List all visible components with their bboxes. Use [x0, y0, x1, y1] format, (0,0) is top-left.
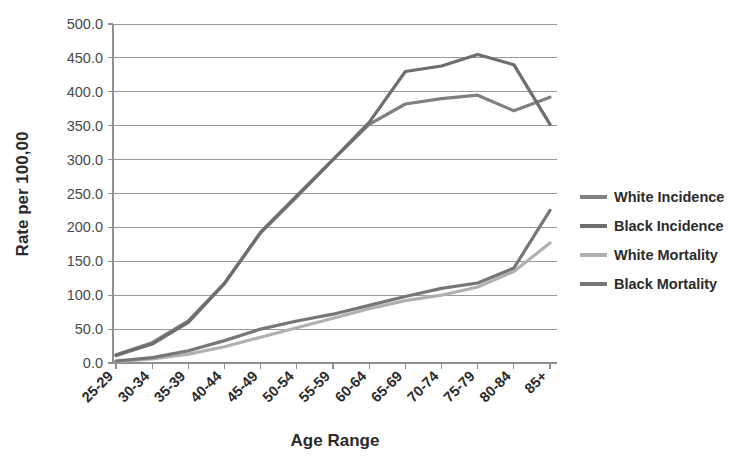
data-series-group — [116, 55, 550, 362]
x-category-label: 80-84 — [476, 368, 514, 406]
y-tick-label: 450.0 — [67, 50, 103, 66]
x-category-label: 65-69 — [368, 368, 406, 406]
x-category-label: 75-79 — [440, 368, 478, 406]
y-tick-label: 300.0 — [67, 152, 103, 168]
y-tick-label: 150.0 — [67, 253, 103, 269]
series-line — [116, 243, 550, 362]
legend-label: White Incidence — [614, 189, 724, 205]
chart-legend: White IncidenceBlack IncidenceWhite Mort… — [580, 189, 724, 292]
legend-label: Black Incidence — [614, 218, 724, 234]
y-tick-label: 100.0 — [67, 287, 103, 303]
y-tick-labels-group: 0.050.0100.0150.0200.0250.0300.0350.0400… — [67, 16, 103, 371]
legend-label: White Mortality — [614, 247, 718, 263]
x-category-label: 50-54 — [259, 368, 297, 406]
x-category-labels-group: 25-2930-3435-3940-4445-4950-5455-5960-64… — [79, 368, 551, 406]
y-tick-label: 500.0 — [67, 16, 103, 32]
y-tick-label: 250.0 — [67, 186, 103, 202]
x-category-label: 40-44 — [187, 368, 225, 406]
x-category-label: 70-74 — [404, 368, 442, 406]
x-category-label: 45-49 — [223, 368, 261, 406]
x-axis-title: Age Range — [291, 431, 380, 450]
y-tick-label: 0.0 — [83, 355, 103, 371]
y-tick-label: 50.0 — [75, 321, 103, 337]
series-line — [116, 210, 550, 361]
x-tick-marks-group — [116, 363, 550, 369]
chart-container: 0.050.0100.0150.0200.0250.0300.0350.0400… — [0, 0, 754, 456]
x-category-label: 30-34 — [115, 368, 153, 406]
y-axis-title: Rate per 100,00 — [13, 132, 32, 257]
x-category-label: 55-59 — [296, 368, 334, 406]
x-category-label: 35-39 — [151, 368, 189, 406]
series-line — [116, 95, 550, 355]
y-tick-marks-group — [108, 24, 113, 363]
legend-label: Black Mortality — [614, 276, 717, 292]
line-chart: 0.050.0100.0150.0200.0250.0300.0350.0400… — [0, 0, 754, 456]
x-category-label: 60-64 — [332, 368, 370, 406]
x-category-label: 85+ — [521, 368, 550, 397]
y-tick-label: 350.0 — [67, 118, 103, 134]
x-category-label: 25-29 — [79, 368, 117, 406]
y-tick-label: 200.0 — [67, 219, 103, 235]
y-tick-label: 400.0 — [67, 84, 103, 100]
